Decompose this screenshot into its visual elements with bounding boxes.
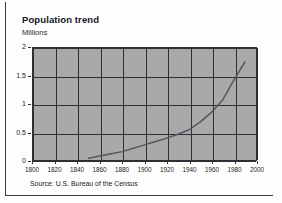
series-layer xyxy=(33,48,256,160)
x-tick-mark-1820 xyxy=(55,161,56,164)
y-tick-label-0: 0 xyxy=(4,157,26,164)
y-tick-label-1.5: 1.5 xyxy=(4,72,26,79)
source-note: Source: U.S. Bureau of the Census xyxy=(30,180,138,187)
y-tick-mark-1 xyxy=(28,104,31,105)
x-tick-mark-1880 xyxy=(122,161,123,164)
x-tick-label-2000: 2000 xyxy=(244,166,270,173)
y-tick-label-0.5: 0.5 xyxy=(4,129,26,136)
x-tick-mark-1920 xyxy=(167,161,168,164)
x-tick-mark-1840 xyxy=(77,161,78,164)
x-tick-mark-1960 xyxy=(212,161,213,164)
x-tick-mark-1900 xyxy=(145,161,146,164)
plot-area xyxy=(32,47,257,161)
figure-left-rule xyxy=(5,2,6,196)
y-tick-mark-0.5 xyxy=(28,133,31,134)
chart-units-label: Millions xyxy=(22,28,47,37)
y-tick-mark-1.5 xyxy=(28,76,31,77)
y-tick-label-1: 1 xyxy=(4,100,26,107)
x-tick-mark-2000 xyxy=(257,161,258,164)
x-tick-mark-1980 xyxy=(235,161,236,164)
x-tick-mark-1940 xyxy=(190,161,191,164)
chart-title: Population trend xyxy=(22,14,99,25)
y-tick-mark-2 xyxy=(28,47,31,48)
figure-bottom-rule xyxy=(5,195,273,196)
population-line xyxy=(89,62,245,158)
y-tick-label-2: 2 xyxy=(4,43,26,50)
y-tick-mark-0 xyxy=(28,161,31,162)
plot-inner xyxy=(33,48,256,160)
gridline-x-2000 xyxy=(257,48,258,160)
population-trend-figure: Population trend Millions 00.511.52 1800… xyxy=(0,0,282,203)
x-tick-mark-1800 xyxy=(32,161,33,164)
x-tick-mark-1860 xyxy=(100,161,101,164)
